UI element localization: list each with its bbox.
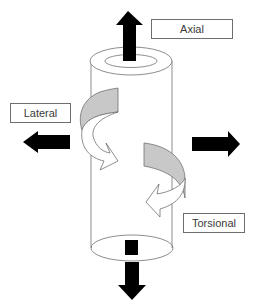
axial-arrow-down-stub	[125, 240, 138, 255]
axial-arrow-down	[118, 262, 146, 300]
lateral-arrow-left	[23, 131, 70, 153]
axial-label: Axial	[151, 19, 233, 39]
lateral-bending-curved-arrow	[80, 88, 118, 170]
loading-diagram	[0, 0, 253, 307]
lateral-label: Lateral	[10, 103, 71, 123]
torsional-label: Torsional	[183, 213, 245, 233]
torsional-curved-arrow	[144, 143, 185, 217]
lateral-arrow-right	[192, 131, 240, 157]
